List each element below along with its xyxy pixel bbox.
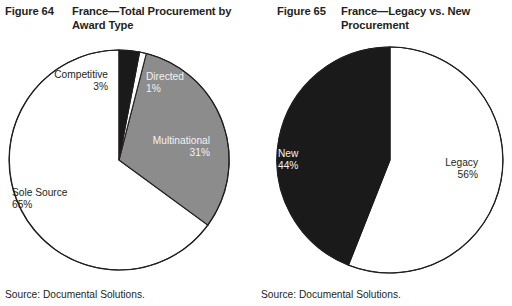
pie-label-legacy-value: 56% [402, 169, 478, 181]
pie-label-competitive: Competitive 3% [14, 69, 108, 94]
pie-label-new-name: New [278, 148, 298, 160]
pie-label-new-value: 44% [278, 160, 298, 172]
pie-label-multinational-name: Multinational [120, 135, 210, 147]
pie-label-sole-source-value: 65% [12, 199, 68, 211]
pie-label-multinational: Multinational 31% [120, 135, 210, 160]
pie-label-sole-source-name: Sole Source [12, 187, 68, 199]
pie-label-sole-source: Sole Source 65% [12, 187, 68, 212]
pie-label-directed-value: 1% [146, 83, 184, 95]
pie-label-directed: Directed 1% [146, 71, 184, 96]
figure-65-pie-chart: New 44% Legacy 56% [256, 0, 512, 306]
pie-label-multinational-value: 31% [120, 147, 210, 159]
pie-label-competitive-name: Competitive [14, 69, 108, 81]
pie-label-directed-name: Directed [146, 71, 184, 83]
pie-label-new: New 44% [278, 148, 298, 173]
figure-64-pie-chart: Competitive 3% Directed 1% Multinational… [0, 0, 256, 306]
figure-65-panel: Figure 65 France—Legacy vs. New Procurem… [256, 0, 512, 306]
pie-label-competitive-value: 3% [14, 81, 108, 93]
pie-label-legacy-name: Legacy [402, 157, 478, 169]
figure-64-panel: Figure 64 France—Total Procurement by Aw… [0, 0, 256, 306]
pie-label-legacy: Legacy 56% [402, 157, 478, 182]
figure-64-source-note: Source: Documental Solutions. [5, 289, 145, 301]
figure-65-source-note: Source: Documental Solutions. [261, 289, 401, 301]
